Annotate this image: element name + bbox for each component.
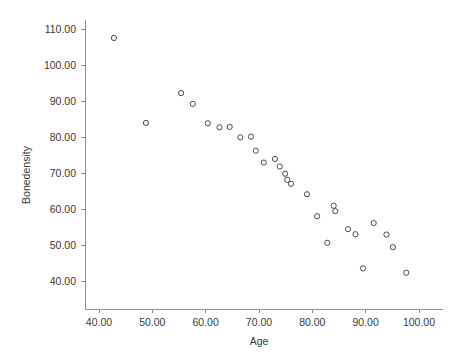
data-point-marker (360, 266, 365, 271)
data-points-group (111, 35, 408, 275)
scatter-chart-figure: 40.0050.0060.0070.0080.0090.00100.00 40.… (0, 0, 458, 357)
data-point-marker (331, 203, 336, 208)
y-tick-label: 70.00 (50, 167, 76, 179)
x-tick-label: 40.00 (86, 316, 112, 328)
y-axis-tick-labels: 40.0050.0060.0070.0080.0090.00100.00110.… (44, 23, 76, 287)
data-point-marker (390, 245, 395, 250)
data-point-marker (261, 160, 266, 165)
y-tick-label: 40.00 (50, 275, 76, 287)
data-point-marker (325, 240, 330, 245)
y-tick-label: 80.00 (50, 131, 76, 143)
y-tick-label: 60.00 (50, 203, 76, 215)
x-tick-label: 50.00 (139, 316, 165, 328)
data-point-marker (304, 192, 309, 197)
data-point-marker (248, 134, 253, 139)
y-axis-title: Bonedensity (20, 145, 32, 204)
data-point-marker (404, 270, 409, 275)
data-point-marker (190, 101, 195, 106)
data-point-marker (205, 121, 210, 126)
data-point-marker (384, 232, 389, 237)
data-point-marker (238, 135, 243, 140)
x-tick-label: 80.00 (299, 316, 325, 328)
tick-marks-group (81, 29, 419, 313)
data-point-marker (277, 164, 282, 169)
data-point-marker (272, 156, 277, 161)
x-tick-label: 90.00 (353, 316, 379, 328)
data-point-marker (353, 232, 358, 237)
y-tick-label: 50.00 (50, 239, 76, 251)
data-point-marker (217, 125, 222, 130)
data-point-marker (333, 209, 338, 214)
data-point-marker (288, 181, 293, 186)
y-tick-label: 110.00 (45, 23, 76, 35)
x-axis-title: Age (250, 335, 269, 347)
x-tick-label: 70.00 (246, 316, 272, 328)
y-tick-label: 100.00 (44, 59, 76, 71)
x-axis-tick-labels: 40.0050.0060.0070.0080.0090.00100.00 (86, 316, 435, 328)
scatter-plot-canvas: 40.0050.0060.0070.0080.0090.00100.00 40.… (0, 0, 458, 357)
y-tick-label: 90.00 (50, 95, 76, 107)
data-point-marker (111, 35, 116, 40)
data-point-marker (253, 148, 258, 153)
data-point-marker (227, 124, 232, 129)
x-tick-label: 100.00 (403, 316, 435, 328)
data-point-marker (283, 171, 288, 176)
data-point-marker (371, 220, 376, 225)
axes-group (85, 20, 443, 309)
x-tick-label: 60.00 (193, 316, 219, 328)
data-point-marker (179, 90, 184, 95)
data-point-marker (345, 227, 350, 232)
data-point-marker (143, 120, 148, 125)
data-point-marker (315, 214, 320, 219)
